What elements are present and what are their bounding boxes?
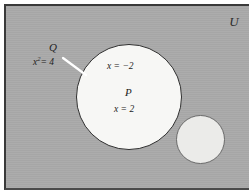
equation-rest: = 4 [40, 57, 54, 67]
set-q-equation-label: x2= 4 [33, 56, 54, 68]
set-q-label: Q [49, 42, 57, 53]
set-q-member-label: x = −2 [107, 62, 134, 72]
set-p-member-label: x = 2 [114, 105, 134, 115]
venn-diagram-figure: U Q x2= 4 x = −2 P x = 2 [0, 0, 249, 190]
universal-set-label: U [229, 14, 239, 30]
leader-line-icon [62, 56, 92, 78]
inner-circle-p [176, 115, 225, 164]
set-p-label: P [125, 87, 132, 98]
universal-set-rectangle: U Q x2= 4 x = −2 P x = 2 [4, 4, 249, 190]
